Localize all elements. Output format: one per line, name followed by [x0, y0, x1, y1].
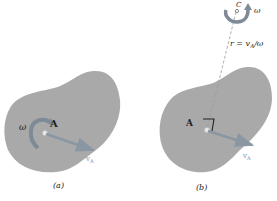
radius-formula-label: r = vA/ω	[230, 39, 264, 49]
point-a-label: A	[49, 118, 58, 129]
omega-arrowhead-b	[244, 3, 252, 10]
instant-center-marker	[235, 9, 238, 12]
panel-b: A vA C ω r = vA/ω (b)	[160, 1, 272, 192]
panel-a: ω A vA (a)	[4, 71, 120, 190]
caption-b: (b)	[196, 183, 207, 192]
velocity-label-b: vA	[242, 152, 251, 161]
velocity-label-a: vA	[85, 155, 94, 164]
omega-label-b: ω	[254, 6, 261, 15]
omega-label-a: ω	[19, 122, 27, 132]
instant-center-label: C	[236, 1, 242, 9]
rigid-body-b	[160, 67, 272, 172]
caption-a: (a)	[53, 181, 64, 190]
instant-center-diagram: ω A vA (a) A vA C ω r = vA/ω (b)	[0, 0, 277, 201]
point-a-label-b: A	[185, 118, 194, 128]
